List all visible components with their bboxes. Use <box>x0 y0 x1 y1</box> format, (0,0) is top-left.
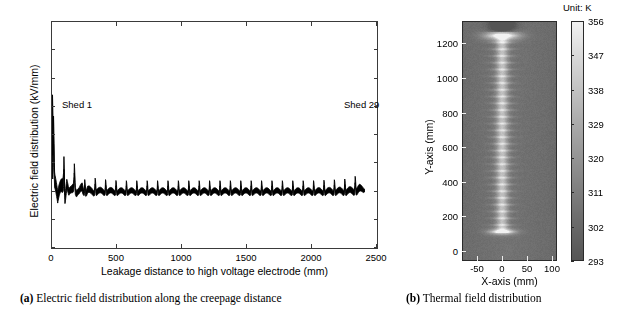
y-tick-mark <box>374 191 378 192</box>
y-tick-mark-thermal <box>462 251 466 252</box>
x-tick-mark <box>376 21 377 26</box>
colorbar-tick-mark <box>571 261 574 262</box>
y-axis-label-thermal: Y-axis (mm) <box>423 62 435 232</box>
colorbar-tick-label: 293 <box>588 256 604 267</box>
x-tick-mark <box>311 244 312 249</box>
thermal-field-heatmap <box>463 22 556 260</box>
y-tick-mark <box>374 78 378 79</box>
caption-panel-a: (a) Electric field distribution along th… <box>20 292 282 304</box>
colorbar-tick-label: 338 <box>588 84 604 95</box>
x-axis-label-electric-field: Leakage distance to high voltage electro… <box>51 265 378 277</box>
colorbar-tick-mark <box>571 158 574 159</box>
x-tick-mark <box>51 21 52 26</box>
electric-field-line-svg <box>52 22 377 248</box>
x-tick-mark <box>376 244 377 249</box>
colorbar-tick-mark <box>571 21 574 22</box>
colorbar-tick-mark <box>571 124 574 125</box>
y-tick-mark <box>51 106 55 107</box>
y-tick-mark <box>374 49 378 50</box>
colorbar-tick-mark <box>571 90 574 91</box>
thermal-image-area <box>462 21 557 261</box>
colorbar-tick-mark <box>571 55 574 56</box>
colorbar-tick-mark <box>571 192 574 193</box>
colorbar-tick-label: 320 <box>588 153 604 164</box>
colorbar-tick-label: 347 <box>588 50 604 61</box>
y-tick-mark <box>51 49 55 50</box>
thermal-field-chart-panel: 020040060080010001200 -50050100 Y-axis (… <box>400 0 622 285</box>
y-tick-mark <box>51 134 55 135</box>
electric-field-chart-panel: -1-0.500.511.522.53 05001000150020002500… <box>0 0 400 285</box>
electric-field-trace <box>53 95 365 204</box>
colorbar-tick-label: 311 <box>588 187 603 198</box>
x-tick-mark-thermal <box>527 256 528 261</box>
x-tick-mark <box>181 21 182 26</box>
y-tick-mark-thermal <box>462 78 466 79</box>
y-tick-mark <box>51 191 55 192</box>
plot-area-electric-field <box>51 21 378 249</box>
x-tick-mark <box>51 244 52 249</box>
colorbar-gradient <box>571 21 584 261</box>
y-tick-mark <box>374 219 378 220</box>
x-tick-mark-thermal <box>502 256 503 261</box>
annotation-shed-29: Shed 29 <box>344 99 379 110</box>
x-tick-mark <box>116 21 117 26</box>
caption-b-tag: (b) <box>406 292 420 304</box>
y-tick-label-thermal: 1200 <box>410 38 458 49</box>
annotation-shed-1: Shed 1 <box>62 99 92 110</box>
y-tick-mark-thermal <box>462 147 466 148</box>
colorbar-tick-label: 302 <box>588 221 604 232</box>
colorbar-tick-mark <box>571 227 574 228</box>
y-tick-mark <box>51 78 55 79</box>
x-tick-label-thermal: -50 <box>470 263 484 274</box>
x-tick-mark <box>116 244 117 249</box>
caption-a-text: Electric field distribution along the cr… <box>36 292 281 304</box>
x-axis-label-thermal: X-axis (mm) <box>462 275 557 287</box>
x-tick-label: 2500 <box>365 252 386 263</box>
colorbar-unit-label: Unit: K <box>563 2 592 13</box>
x-tick-label-thermal: 0 <box>499 263 504 274</box>
x-tick-label: 1500 <box>235 252 256 263</box>
y-tick-mark <box>374 162 378 163</box>
y-tick-mark-thermal <box>462 113 466 114</box>
x-tick-mark <box>246 244 247 249</box>
x-tick-label: 500 <box>108 252 124 263</box>
y-tick-mark <box>51 219 55 220</box>
y-axis-label-electric-field: Electric field distribution (kV/mm) <box>28 41 40 241</box>
y-tick-mark <box>51 162 55 163</box>
x-tick-mark <box>311 21 312 26</box>
x-tick-mark <box>246 21 247 26</box>
caption-b-text: Thermal field distribution <box>423 292 542 304</box>
x-tick-label-thermal: 50 <box>522 263 533 274</box>
y-tick-mark-thermal <box>462 182 466 183</box>
caption-a-tag: (a) <box>20 292 33 304</box>
caption-panel-b: (b) Thermal field distribution <box>406 292 542 304</box>
x-tick-label: 0 <box>48 252 53 263</box>
y-tick-mark-thermal <box>462 216 466 217</box>
y-tick-mark-thermal <box>462 43 466 44</box>
x-tick-mark <box>181 244 182 249</box>
y-tick-label-thermal: 0 <box>410 245 458 256</box>
x-tick-mark-thermal <box>477 256 478 261</box>
colorbar-tick-label: 329 <box>588 118 604 129</box>
colorbar-tick-label: 356 <box>588 16 604 27</box>
x-tick-label: 1000 <box>170 252 191 263</box>
x-tick-mark-thermal <box>552 256 553 261</box>
x-tick-label: 2000 <box>300 252 321 263</box>
y-tick-mark <box>374 134 378 135</box>
x-tick-label-thermal: 100 <box>544 263 560 274</box>
